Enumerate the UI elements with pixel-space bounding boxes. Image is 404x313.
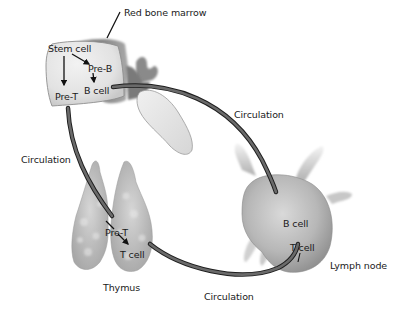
marrow-leader-line: [107, 12, 120, 38]
label-thymus: Thymus: [103, 283, 140, 293]
label-lymph-node: Lymph node: [330, 261, 387, 271]
label-circulation-left: Circulation: [21, 155, 71, 165]
label-pre-b: Pre-B: [88, 64, 112, 74]
lymphocyte-circulation-diagram: Red bone marrow Stem cell Pre-B B cell P…: [0, 0, 404, 313]
label-b-cell-marrow: B cell: [84, 86, 109, 96]
label-circulation-bottom: Circulation: [204, 292, 254, 302]
label-pre-t-marrow: Pre-T: [55, 92, 78, 102]
label-stem-cell: Stem cell: [48, 44, 91, 54]
label-red-bone-marrow: Red bone marrow: [124, 8, 206, 18]
label-pre-t-thymus: Pre-T: [105, 228, 128, 238]
label-t-cell-thymus: T cell: [120, 250, 145, 260]
label-t-cell-lymph-node: T cell: [290, 243, 315, 253]
label-circulation-upper-right: Circulation: [234, 110, 284, 120]
label-b-cell-lymph-node: B cell: [283, 219, 308, 229]
